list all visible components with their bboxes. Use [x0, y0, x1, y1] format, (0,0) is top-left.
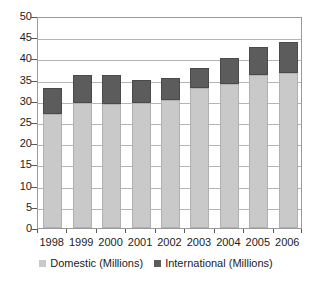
legend-swatch-domestic-icon [39, 260, 46, 267]
bar-segment-international[interactable] [220, 58, 239, 84]
y-axis-tick-label: 30 [0, 96, 32, 107]
y-axis-tick-label: 20 [0, 138, 32, 149]
x-axis-tick [96, 229, 97, 233]
bar-segment-international[interactable] [132, 80, 151, 104]
x-axis-tick [155, 229, 156, 233]
x-axis-tick [214, 229, 215, 233]
bar-segment-domestic[interactable] [43, 114, 62, 228]
bar-segment-domestic[interactable] [161, 100, 180, 228]
y-axis-tick-label: 40 [0, 53, 32, 64]
bar-segment-domestic[interactable] [132, 103, 151, 228]
legend-label-international: International (Millions) [165, 257, 273, 269]
bar-segment-international[interactable] [249, 47, 268, 75]
bar-segment-international[interactable] [279, 42, 298, 73]
y-axis-tick-label: 5 [0, 202, 32, 213]
x-axis: 199819992000200120022003200420052006 [37, 236, 302, 250]
bar-segment-domestic[interactable] [102, 104, 121, 228]
stacked-bar-chart: 05101520253035404550 1998199920002001200… [0, 0, 312, 284]
bar-segment-domestic[interactable] [220, 84, 239, 228]
legend-swatch-international-icon [154, 260, 161, 267]
x-axis-tick [273, 229, 274, 233]
y-axis-tick-label: 10 [0, 181, 32, 192]
y-axis-tick-label: 45 [0, 32, 32, 43]
x-axis-tick-label: 2006 [270, 236, 304, 248]
chart-legend: Domestic (Millions) International (Milli… [0, 257, 312, 269]
bar-segment-international[interactable] [73, 75, 92, 103]
x-axis-tick [243, 229, 244, 233]
legend-item-domestic: Domestic (Millions) [39, 257, 143, 269]
y-axis-tick-label: 35 [0, 75, 32, 86]
y-axis-tick-label: 0 [0, 223, 32, 234]
bars-layer [38, 18, 301, 228]
bar-segment-international[interactable] [190, 68, 209, 88]
x-axis-tickmarks [37, 229, 302, 234]
bar-segment-international[interactable] [102, 75, 121, 104]
y-axis-tick-label: 50 [0, 11, 32, 22]
y-axis: 05101520253035404550 [0, 0, 32, 284]
bar-segment-domestic[interactable] [73, 103, 92, 228]
bar-segment-international[interactable] [43, 88, 62, 113]
bar-segment-domestic[interactable] [249, 75, 268, 228]
x-axis-tick [184, 229, 185, 233]
legend-item-international: International (Millions) [154, 257, 273, 269]
x-axis-tick [37, 229, 38, 233]
x-axis-tick [301, 229, 302, 233]
bar-segment-domestic[interactable] [190, 88, 209, 228]
legend-label-domestic: Domestic (Millions) [50, 257, 143, 269]
bar-segment-domestic[interactable] [279, 73, 298, 228]
x-axis-tick [125, 229, 126, 233]
plot-area [37, 17, 302, 229]
x-axis-tick [66, 229, 67, 233]
bar-segment-international[interactable] [161, 78, 180, 100]
y-axis-tick-label: 25 [0, 117, 32, 128]
y-axis-tick-label: 15 [0, 159, 32, 170]
